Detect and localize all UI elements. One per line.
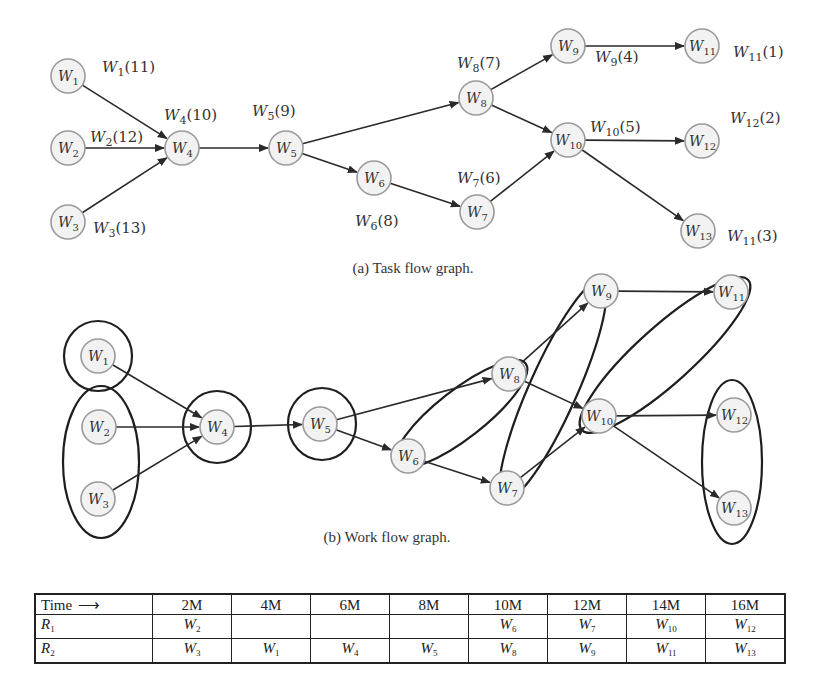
resource-label: R1 [35, 615, 153, 639]
weight-label-w9: W9(4) [595, 48, 639, 69]
weight-label-w6: W6(8) [355, 212, 399, 233]
edge-w7-w10 [520, 427, 584, 477]
node-w13: W13 [681, 214, 715, 248]
schedule-cell: W7 [548, 615, 627, 639]
schedule-cell: W5 [390, 639, 469, 664]
edge-w5-w6 [336, 430, 391, 450]
node-w5: W5 [269, 131, 303, 165]
weight-label-w5: W5(9) [252, 102, 296, 123]
weight-label-w10: W10(5) [590, 118, 641, 139]
weight-label-w3: W3(13) [93, 219, 146, 240]
edge-w3-w4 [82, 158, 167, 213]
node-w9: W9 [551, 29, 585, 63]
node-w12: W12 [685, 124, 719, 158]
node-w6: W6 [391, 439, 425, 473]
edge-w6-w7 [390, 183, 460, 206]
schedule-cell [311, 615, 390, 639]
flow-diagrams: W1W1(11)W2W2(12)W3W3(13)W4W4(10)W5W5(9)W… [0, 0, 831, 590]
weight-label-w8: W8(7) [457, 54, 501, 75]
table-row: R2W3W1W4W5W8W9W11W13 [35, 639, 785, 664]
schedule-cell [390, 615, 469, 639]
edge-w6-w7 [424, 461, 490, 482]
node-w10: W10 [551, 123, 585, 157]
schedule-cell: W1 [232, 639, 311, 664]
edge-w4-w5 [234, 425, 302, 427]
edge-w10-w13 [582, 150, 683, 221]
time-column-header: 4M [232, 594, 311, 615]
schedule-cell: W2 [153, 615, 232, 639]
weight-label-w7: W7(6) [457, 169, 501, 190]
time-column-header: 14M [627, 594, 706, 615]
node-w12: W12 [717, 398, 751, 432]
node-w7: W7 [490, 471, 524, 505]
schedule-cell: W11 [627, 639, 706, 664]
work-flow-caption: (b) Work flow graph. [324, 529, 451, 546]
node-w1: W1 [81, 339, 115, 373]
task-flow-graph: W1W1(11)W2W2(12)W3W3(13)W4W4(10)W5W5(9)W… [51, 29, 784, 248]
node-w2: W2 [82, 410, 116, 444]
arrow-right-icon: ⟶ [78, 596, 100, 614]
table-row: R1W2W6W7W10W12 [35, 615, 785, 639]
edge-w1-w4 [113, 365, 202, 418]
node-w7: W7 [460, 195, 494, 229]
node-w3: W3 [51, 205, 85, 239]
time-column-header: 6M [311, 594, 390, 615]
node-w10: W10 [582, 399, 616, 433]
weight-label-w11: W11(1) [733, 43, 784, 64]
edge-w5-w8 [302, 103, 458, 144]
time-column-header: 16M [706, 594, 786, 615]
time-column-header: 8M [390, 594, 469, 615]
node-w8: W8 [459, 81, 493, 115]
node-w13: W13 [717, 491, 751, 525]
time-column-header: 2M [153, 594, 232, 615]
time-header: Time⟶ [35, 594, 153, 615]
node-w11: W11 [685, 29, 719, 63]
node-w6: W6 [357, 161, 391, 195]
weight-label-w1: W1(11) [102, 58, 155, 79]
work-flow-graph: W1W2W3W4W5W6W7W8W9W10W11W12W13 [63, 259, 767, 544]
weight-label-w2: W2(12) [90, 128, 143, 149]
edge-w5-w8 [336, 379, 491, 420]
edge-w8-w9 [522, 303, 588, 363]
node-w8: W8 [492, 357, 526, 391]
weight-label-w13: W11(3) [727, 227, 778, 248]
schedule-cell: W3 [153, 639, 232, 664]
edge-w10-w12 [585, 140, 684, 141]
edge-w8-w10 [491, 105, 551, 132]
schedule-cell: W6 [469, 615, 548, 639]
schedule-cell: W8 [469, 639, 548, 664]
schedule-table: Time⟶2M4M6M8M10M12M14M16MR1W2W6W7W10W12R… [34, 593, 786, 664]
node-w1: W1 [51, 59, 85, 93]
edge-w5-w6 [302, 153, 357, 172]
schedule-cell: W12 [706, 615, 786, 639]
node-w2: W2 [51, 131, 85, 165]
edge-w9-w11 [618, 291, 713, 292]
node-w9: W9 [584, 274, 618, 308]
edge-w10-w12 [616, 415, 716, 416]
time-column-header: 12M [548, 594, 627, 615]
resource-label: R2 [35, 639, 153, 664]
table-header-row: Time⟶2M4M6M8M10M12M14M16M [35, 594, 785, 615]
weight-label-w4: W4(10) [164, 106, 217, 127]
node-w4: W4 [200, 410, 234, 444]
edge-w8-w10 [524, 381, 582, 408]
node-w3: W3 [81, 482, 115, 516]
edge-w3-w4 [113, 436, 202, 490]
schedule-cell: W13 [706, 639, 786, 664]
schedule-cell: W9 [548, 639, 627, 664]
weight-label-w12: W12(2) [730, 109, 781, 130]
node-w5: W5 [303, 407, 337, 441]
node-w11: W11 [714, 275, 748, 309]
task-flow-caption: (a) Task flow graph. [352, 260, 473, 277]
schedule-cell: W4 [311, 639, 390, 664]
schedule-cell [232, 615, 311, 639]
node-w4: W4 [165, 131, 199, 165]
time-column-header: 10M [469, 594, 548, 615]
schedule-cell: W10 [627, 615, 706, 639]
